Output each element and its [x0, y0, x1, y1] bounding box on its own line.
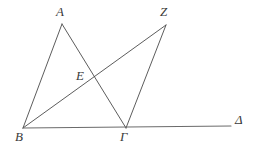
segment-a-gamma [62, 24, 126, 128]
vertex-label-e: E [76, 69, 84, 82]
vertex-label-a: A [56, 5, 64, 18]
segment-group [23, 24, 231, 128]
geometry-figure: A Z E B Γ Δ [0, 0, 258, 147]
segment-b-z [23, 25, 166, 128]
segment-z-gamma [126, 25, 166, 128]
vertex-label-b: B [15, 130, 23, 143]
segment-b-a [23, 24, 62, 128]
vertex-label-z: Z [160, 5, 167, 18]
vertex-label-delta: Δ [235, 113, 243, 126]
geometry-canvas [0, 0, 258, 147]
vertex-label-gamma: Γ [120, 130, 127, 143]
